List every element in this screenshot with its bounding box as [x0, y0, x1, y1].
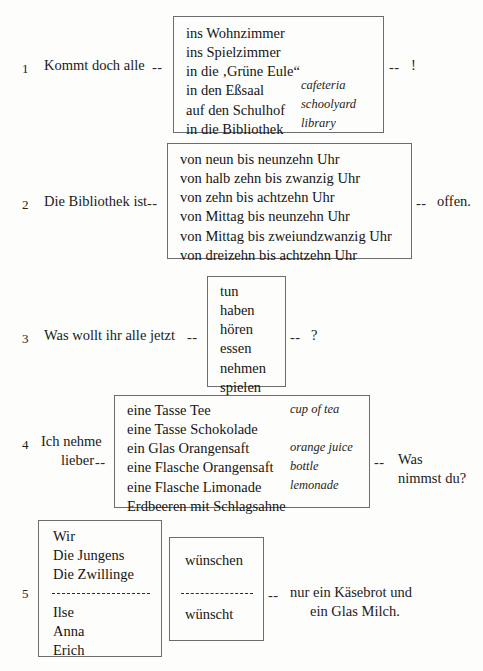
subject-item[interactable]: Erich: [53, 641, 84, 660]
exercise-3-right-connector: --: [290, 330, 301, 345]
choice-text: spielen: [220, 378, 261, 397]
exercise-5-tail-line1: nur ein Käsebrot und: [290, 583, 412, 602]
choice-text: Erdbeeren mit Schlagsahne: [127, 497, 286, 516]
subject-item[interactable]: Ilse: [53, 603, 74, 622]
exercise-4-choice-box[interactable]: eine Tasse Tee eine Tasse Schokolade ein…: [114, 395, 370, 508]
choice-item[interactable]: nehmen: [220, 359, 285, 378]
exercise-2-left-connector: --: [147, 196, 158, 211]
exercise-5-subject-box[interactable]: Wir Die Jungens Die Zwillinge Ilse Anna …: [38, 520, 162, 657]
choice-gloss: schoolyard: [301, 97, 356, 112]
choice-item[interactable]: von neun bis neunzehn Uhr: [180, 150, 411, 169]
exercise-3-left-connector: --: [187, 330, 198, 345]
choice-text: in die ‚Grüne Eule“: [186, 62, 300, 81]
choice-text: von Mittag bis zweiundzwanzig Uhr: [180, 227, 392, 246]
choice-item[interactable]: in die Bibliothek: [186, 120, 383, 139]
choice-gloss: cafeteria: [301, 78, 345, 93]
exercise-page: 1 Kommt doch alle -- ins Wohnzimmer ins …: [0, 0, 483, 671]
choice-item[interactable]: von zehn bis achtzehn Uhr: [180, 188, 411, 207]
choice-item[interactable]: Erdbeeren mit Schlagsahne: [127, 497, 369, 516]
choice-text: von halb zehn bis zwanzig Uhr: [180, 169, 360, 188]
verb-singular[interactable]: wünscht: [185, 605, 233, 624]
exercise-3-stem: Was wollt ihr alle jetzt: [44, 326, 175, 344]
choice-item[interactable]: hören: [220, 320, 285, 339]
exercise-4-tail-line2: nimmst du?: [398, 469, 466, 488]
subject-item[interactable]: Die Zwillinge: [53, 565, 134, 584]
exercise-1-stem: Kommt doch alle: [44, 56, 145, 74]
choice-text: eine Tasse Tee: [127, 401, 211, 420]
exercise-4-left-connector: --: [95, 455, 106, 470]
choice-item[interactable]: spielen: [220, 378, 285, 397]
verb-plural[interactable]: wünschen: [185, 551, 243, 570]
choice-gloss: cup of tea: [290, 402, 339, 417]
choice-text: eine Flasche Limonade: [127, 478, 261, 497]
subject-item[interactable]: Anna: [53, 622, 84, 641]
exercise-2-choice-box[interactable]: von neun bis neunzehn Uhr von halb zehn …: [167, 143, 412, 259]
subject-item[interactable]: Die Jungens: [53, 546, 124, 565]
choice-text: eine Flasche Orangensaft: [127, 458, 274, 477]
choice-text: eine Tasse Schokolade: [127, 420, 258, 439]
verb-group-divider: [181, 593, 253, 594]
choice-item[interactable]: tun: [220, 282, 285, 301]
choice-gloss: bottle: [290, 459, 318, 474]
exercise-5-tail-line2: ein Glas Milch.: [310, 602, 400, 621]
choice-item[interactable]: in die ‚Grüne Eule“: [186, 62, 383, 81]
choice-gloss: library: [301, 116, 336, 131]
exercise-1-tail: !: [411, 56, 416, 75]
exercise-3-choice-box[interactable]: tun haben hören essen nehmen spielen: [207, 276, 286, 387]
exercise-number-3: 3: [22, 332, 29, 345]
choice-text: von dreizehn bis achtzehn Uhr: [180, 246, 357, 265]
exercise-number-5: 5: [22, 587, 29, 600]
exercise-5-verb-box[interactable]: wünschen wünscht: [169, 537, 264, 641]
exercise-1-choice-box[interactable]: ins Wohnzimmer ins Spielzimmer in die ‚G…: [173, 16, 384, 133]
choice-item[interactable]: von halb zehn bis zwanzig Uhr: [180, 169, 411, 188]
choice-item[interactable]: eine Tasse Schokolade: [127, 420, 369, 439]
choice-text: ins Spielzimmer: [186, 43, 281, 62]
choice-text: tun: [220, 282, 239, 301]
choice-item[interactable]: essen: [220, 339, 285, 358]
exercise-2-stem: Die Bibliothek ist: [44, 192, 147, 210]
choice-item[interactable]: haben: [220, 301, 285, 320]
choice-text: nehmen: [220, 359, 266, 378]
choice-text: essen: [220, 339, 251, 358]
choice-text: von Mittag bis neunzehn Uhr: [180, 207, 350, 226]
exercise-4-tail-line1: Was: [398, 450, 423, 469]
subject-item[interactable]: Wir: [53, 527, 75, 546]
choice-text: auf den Schulhof: [186, 101, 285, 120]
choice-text: ein Glas Orangensaft: [127, 439, 249, 458]
choice-gloss: orange juice: [290, 440, 353, 455]
choice-gloss: lemonade: [290, 478, 339, 493]
exercise-4-stem-line1: Ich nehme: [41, 432, 102, 450]
exercise-4-stem-line2: lieber: [61, 451, 94, 469]
choice-item[interactable]: von dreizehn bis achtzehn Uhr: [180, 246, 411, 265]
choice-item[interactable]: eine Flasche Orangensaft: [127, 458, 369, 477]
choice-text: haben: [220, 301, 255, 320]
exercise-5-right-connector: --: [268, 588, 279, 603]
choice-text: hören: [220, 320, 253, 339]
exercise-2-right-connector: --: [416, 196, 427, 211]
subject-group-divider: [52, 593, 150, 594]
exercise-number-4: 4: [22, 438, 29, 451]
choice-item[interactable]: ins Spielzimmer: [186, 43, 383, 62]
exercise-2-tail: offen.: [437, 192, 471, 211]
choice-item[interactable]: von Mittag bis neunzehn Uhr: [180, 207, 411, 226]
choice-text: ins Wohnzimmer: [186, 24, 285, 43]
choice-text: in den Eßsaal: [186, 81, 264, 100]
exercise-1-left-connector: --: [152, 60, 163, 75]
choice-item[interactable]: ins Wohnzimmer: [186, 24, 383, 43]
exercise-4-right-connector: --: [374, 455, 385, 470]
choice-item[interactable]: von Mittag bis zweiundzwanzig Uhr: [180, 227, 411, 246]
exercise-number-1: 1: [22, 62, 29, 75]
exercise-number-2: 2: [22, 198, 29, 211]
exercise-3-tail: ?: [311, 326, 317, 345]
choice-text: von zehn bis achtzehn Uhr: [180, 188, 335, 207]
choice-text: von neun bis neunzehn Uhr: [180, 150, 339, 169]
exercise-1-right-connector: --: [389, 60, 400, 75]
choice-text: in die Bibliothek: [186, 120, 283, 139]
